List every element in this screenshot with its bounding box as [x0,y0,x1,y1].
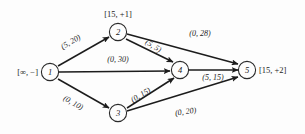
diagram-canvas: (5, 20) (0, 30) (0, 10) (5, 5) (0, 28) (… [0,0,305,134]
node-1-tag: [∞, −] [17,67,38,77]
edge-label-2-5: (0, 28) [189,29,211,38]
edge-label-1-2: (5, 20) [59,32,82,51]
edge-2-5 [127,34,238,64]
node-5-number: 5 [245,65,249,75]
node-2-tag: [15, +1] [104,9,132,19]
edge-label-4-5: (5, 15) [202,73,224,82]
edge-labels-group: (5, 20) (0, 30) (0, 10) (5, 5) (0, 28) (… [59,29,224,118]
node-3-number: 3 [115,108,120,118]
edge-label-3-4: (0, 15) [129,85,152,104]
node-5[interactable]: 5 [15, +2] [238,61,286,78]
edge-label-3-5: (0, 20) [174,105,197,117]
node-1[interactable]: 1 [∞, −] [17,63,58,80]
node-4[interactable]: 4 [171,61,188,78]
edge-1-4 [59,71,170,72]
network-flow-diagram: (5, 20) (0, 30) (0, 10) (5, 5) (0, 28) (… [0,0,305,134]
node-2[interactable]: 2 [15, +1] [104,9,132,41]
edge-label-1-3: (0, 10) [62,94,85,112]
node-1-number: 1 [48,67,52,77]
node-3[interactable]: 3 [109,104,126,121]
node-5-tag: [15, +2] [259,65,287,75]
edge-label-1-4: (0, 30) [107,55,129,64]
